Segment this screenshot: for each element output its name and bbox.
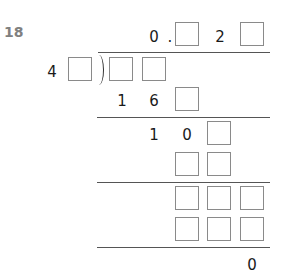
question-number: 18 [4, 24, 23, 40]
step4-box-1[interactable] [175, 186, 199, 210]
step2-digit-0: 0 [181, 127, 193, 143]
quotient-box-tenths[interactable] [175, 22, 199, 46]
subtraction-line-3 [97, 247, 270, 248]
step1-digit-6: 6 [148, 93, 160, 109]
remainder: 0 [246, 257, 258, 273]
step2-digit-1: 1 [148, 127, 160, 143]
step5-box-3[interactable] [240, 217, 264, 241]
division-bar [98, 52, 270, 53]
division-bracket [94, 55, 104, 85]
step1-digit-1: 1 [116, 93, 128, 109]
dividend-box-2[interactable] [142, 57, 166, 81]
subtraction-line-2 [97, 182, 270, 183]
step3-box-2[interactable] [207, 152, 231, 176]
step5-box-2[interactable] [207, 217, 231, 241]
step3-box-1[interactable] [175, 152, 199, 176]
step2-box[interactable] [207, 121, 231, 145]
quotient-digit-2: 2 [214, 29, 226, 45]
dividend-box-1[interactable] [109, 57, 133, 81]
quotient-digit-0: 0 [148, 29, 160, 45]
step4-box-2[interactable] [207, 186, 231, 210]
divisor-box[interactable] [68, 57, 92, 81]
step1-box[interactable] [175, 87, 199, 111]
step5-box-1[interactable] [175, 217, 199, 241]
quotient-box-thousandths[interactable] [240, 22, 264, 46]
step4-box-3[interactable] [240, 186, 264, 210]
divisor-digit-4: 4 [46, 64, 58, 80]
subtraction-line-1 [97, 117, 270, 118]
